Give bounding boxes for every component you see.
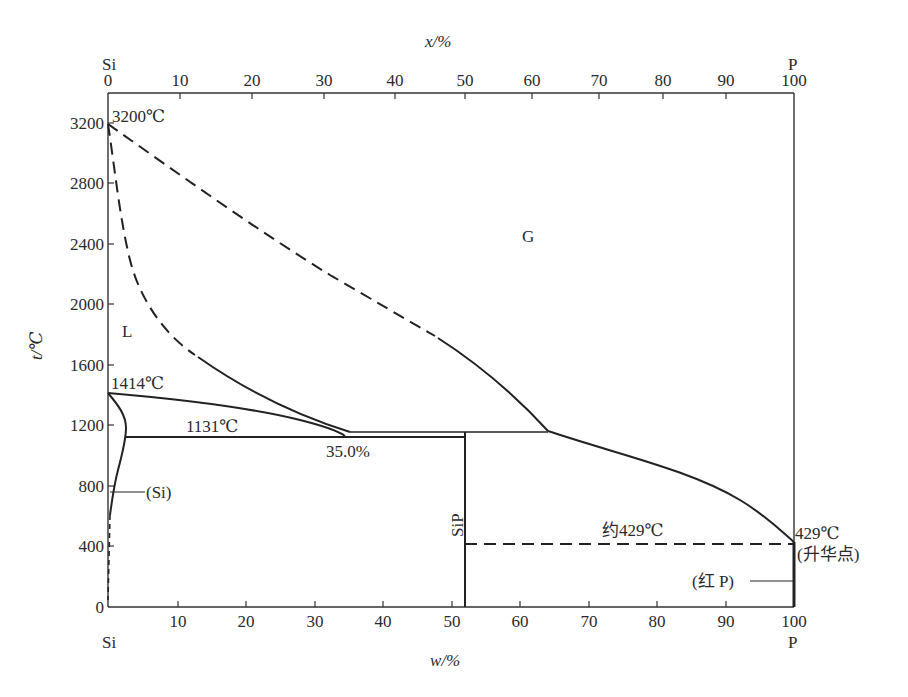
annot-3200: 3200℃ <box>112 107 165 126</box>
top-axis-ticks <box>180 93 726 99</box>
annot-35pct: 35.0% <box>326 442 370 461</box>
annot-approx-429: 约429℃ <box>602 521 664 540</box>
gas-p-boundary <box>548 431 794 542</box>
svg-text:400: 400 <box>79 537 105 556</box>
label-sip: SiP <box>448 513 467 537</box>
bottom-right-p-label: P <box>788 633 797 652</box>
left-tick-labels: 0 400 800 1200 1600 2000 2400 2800 3200 <box>70 114 104 617</box>
annot-1414: 1414℃ <box>111 374 164 393</box>
svg-text:2000: 2000 <box>70 295 104 314</box>
label-red-p: (红 P) <box>692 572 734 591</box>
svg-text:800: 800 <box>79 477 105 496</box>
label-si-solid: (Si) <box>146 483 172 502</box>
annot-1131: 1131℃ <box>186 417 238 436</box>
gas-boundary-solid <box>438 338 548 431</box>
gas-boundary-dashed <box>108 124 435 336</box>
svg-text:20: 20 <box>238 612 255 631</box>
svg-text:80: 80 <box>655 71 672 90</box>
top-left-si-label: Si <box>102 55 116 74</box>
svg-text:0: 0 <box>96 598 105 617</box>
y-axis-title: t/℃ <box>27 332 46 360</box>
svg-text:70: 70 <box>591 71 608 90</box>
svg-text:30: 30 <box>316 71 333 90</box>
svg-text:1200: 1200 <box>70 416 104 435</box>
svg-text:1600: 1600 <box>70 356 104 375</box>
liquid-gas-dashed <box>108 124 195 355</box>
svg-text:2800: 2800 <box>70 174 104 193</box>
svg-text:50: 50 <box>457 71 474 90</box>
label-liquid: L <box>122 322 132 341</box>
svg-text:40: 40 <box>387 71 404 90</box>
svg-text:100: 100 <box>781 612 807 631</box>
annot-sublimation: (升华点) <box>797 545 859 564</box>
si-solvus <box>108 393 126 515</box>
top-tick-labels: 0 10 20 30 40 50 60 70 80 90 100 <box>104 71 807 90</box>
svg-text:3200: 3200 <box>70 114 104 133</box>
svg-text:60: 60 <box>512 612 529 631</box>
svg-text:90: 90 <box>718 612 735 631</box>
annot-429: 429℃ <box>795 524 840 543</box>
bottom-axis-title: w/% <box>430 651 460 670</box>
top-axis-title: x/% <box>424 32 451 51</box>
top-right-p-label: P <box>788 55 797 74</box>
left-axis-ticks <box>108 123 114 546</box>
svg-text:20: 20 <box>244 71 261 90</box>
svg-text:60: 60 <box>524 71 541 90</box>
svg-text:40: 40 <box>375 612 392 631</box>
label-gas: G <box>522 227 534 246</box>
svg-text:10: 10 <box>170 612 187 631</box>
svg-text:70: 70 <box>581 612 598 631</box>
svg-text:80: 80 <box>649 612 666 631</box>
svg-text:30: 30 <box>307 612 324 631</box>
svg-text:90: 90 <box>718 71 735 90</box>
bottom-tick-labels: 10 20 30 40 50 60 70 80 90 100 <box>170 612 807 631</box>
svg-text:10: 10 <box>172 71 189 90</box>
svg-text:50: 50 <box>444 612 461 631</box>
phase-diagram: 0 10 20 30 40 50 60 70 80 90 100 Si P x/… <box>0 0 908 697</box>
bottom-axis-ticks <box>178 601 726 607</box>
svg-text:2400: 2400 <box>70 235 104 254</box>
bottom-left-si-label: Si <box>102 633 116 652</box>
